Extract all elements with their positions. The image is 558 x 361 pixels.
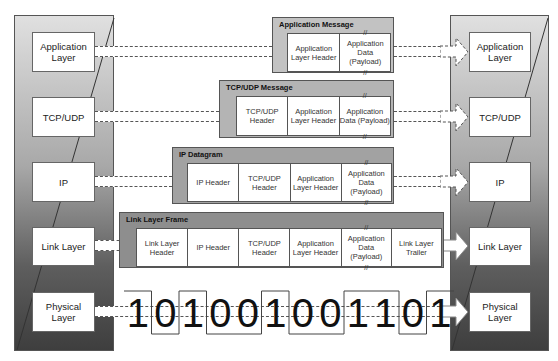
- bit: 0: [234, 288, 262, 338]
- left-layer-tcpudp: TCP/UDP: [32, 97, 95, 137]
- message-title: TCP/UDP Message: [226, 83, 293, 92]
- bit: 1: [124, 288, 152, 338]
- bit: 1: [427, 288, 455, 338]
- right-layer-physical: Physical Layer: [469, 292, 531, 332]
- ip-datagram: IP Datagram IP Header TCP/UDP Header App…: [172, 147, 394, 204]
- cell-link-trailer: Link Layer Trailer: [392, 229, 441, 266]
- cell-tcpudp-header: TCP/UDP Header: [239, 164, 290, 201]
- right-layer-ip: IP: [469, 162, 531, 202]
- layer-label: Application Layer: [470, 41, 530, 63]
- left-layer-link: Link Layer: [32, 227, 95, 266]
- arrow-right-icon: [440, 230, 470, 262]
- connector-tcpudp: [95, 111, 219, 122]
- bit: 1: [262, 288, 290, 338]
- right-layer-tcpudp: TCP/UDP: [469, 97, 531, 137]
- arrow-right-icon: [440, 36, 470, 68]
- layer-label: Physical Layer: [33, 301, 94, 323]
- cell-ip-header: IP Header: [188, 229, 239, 266]
- cell-application-header: Application Layer Header: [288, 97, 339, 135]
- arrow-right-icon: [440, 101, 470, 133]
- break-mark-icon: //: [363, 69, 367, 76]
- application-message: Application Message Application Layer He…: [272, 17, 394, 73]
- right-layer-link: Link Layer: [469, 227, 531, 266]
- bit: 1: [372, 288, 400, 338]
- break-mark-icon: //: [363, 92, 367, 99]
- cell-application-data: // Application Data (Payload) //: [340, 34, 390, 71]
- bit: 0: [207, 288, 235, 338]
- break-mark-icon: //: [364, 224, 368, 231]
- layer-label: Physical Layer: [470, 301, 530, 323]
- bit: 1: [344, 288, 372, 338]
- connector-ip: [95, 176, 172, 187]
- break-mark-icon: //: [363, 29, 367, 36]
- bit: 0: [399, 288, 427, 338]
- right-layer-application: Application Layer: [469, 32, 531, 72]
- message-title: Application Message: [279, 20, 354, 29]
- bit: 0: [152, 288, 180, 338]
- break-mark-icon: //: [364, 159, 368, 166]
- layer-label: TCP/UDP: [43, 112, 85, 123]
- cell-application-header: Application Layer Header: [288, 34, 340, 71]
- break-mark-icon: //: [364, 199, 368, 206]
- cell-ip-header: IP Header: [188, 164, 239, 201]
- layer-label: Application Layer: [33, 41, 94, 63]
- cell-application-data: // Application Data (Payload) //: [342, 164, 391, 201]
- left-layer-ip: IP: [32, 162, 95, 202]
- layer-label: IP: [59, 177, 68, 188]
- physical-bit-stream: 1 0 1 0 0 1 0 0 1 1 0 1: [124, 288, 454, 338]
- cell-link-header: Link Layer Header: [137, 229, 188, 266]
- bit: 0: [317, 288, 345, 338]
- message-title: IP Datagram: [179, 150, 223, 159]
- layer-label: Link Layer: [42, 241, 86, 252]
- link-layer-frame: Link Layer Frame Link Layer Header IP He…: [119, 212, 444, 268]
- cell-tcpudp-header: TCP/UDP Header: [237, 97, 288, 135]
- message-title: Link Layer Frame: [126, 215, 188, 224]
- cell-application-header: Application Layer Header: [290, 229, 341, 266]
- layer-label: IP: [496, 177, 505, 188]
- cell-application-header: Application Layer Header: [291, 164, 342, 201]
- layer-label: Link Layer: [478, 241, 522, 252]
- arrow-right-icon: [440, 166, 470, 198]
- cell-application-data: // Application Data (Payload) //: [342, 229, 392, 266]
- bit: 0: [289, 288, 317, 338]
- break-mark-icon: //: [363, 133, 367, 140]
- cell-tcpudp-header: TCP/UDP Header: [239, 229, 290, 266]
- left-layer-application: Application Layer: [32, 32, 95, 72]
- left-layer-physical: Physical Layer: [32, 292, 95, 332]
- cell-application-data: // Application Data (Payload) //: [340, 97, 390, 135]
- bit: 1: [179, 288, 207, 338]
- connector-application: [95, 46, 272, 57]
- tcpudp-message: TCP/UDP Message TCP/UDP Header Applicati…: [219, 80, 394, 138]
- break-mark-icon: //: [364, 264, 368, 271]
- layer-label: TCP/UDP: [479, 112, 521, 123]
